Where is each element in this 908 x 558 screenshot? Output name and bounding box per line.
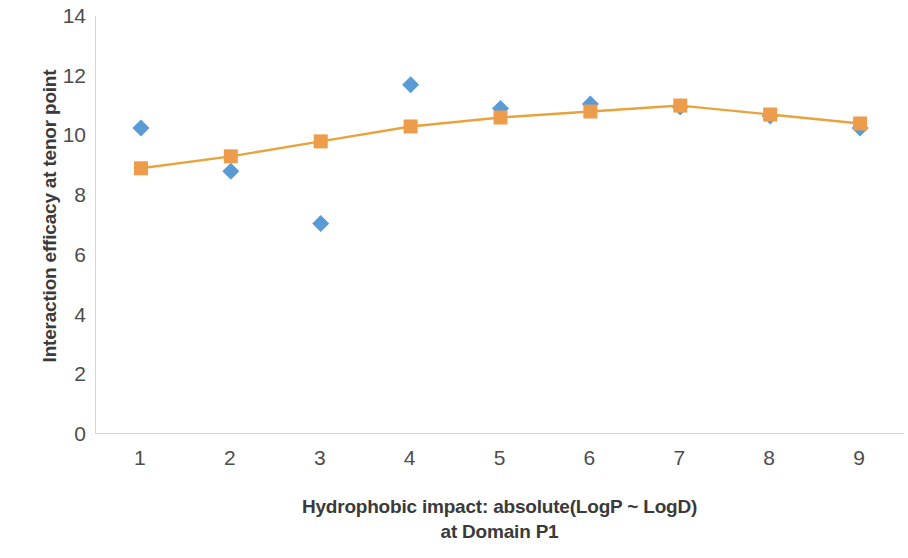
data-point-square xyxy=(134,161,148,175)
x-axis-tick-label: 3 xyxy=(290,447,350,468)
data-point-square xyxy=(673,99,687,113)
y-axis-tick-label: 14 xyxy=(46,5,86,26)
data-point-square xyxy=(583,105,597,119)
y-axis-tick-labels: 02468101214 xyxy=(38,0,86,558)
x-axis-title: Hydrophobic impact: absolute(LogP ~ LogD… xyxy=(95,494,904,544)
data-point-diamond xyxy=(132,119,149,136)
x-axis-tick-label: 5 xyxy=(470,447,530,468)
x-axis-tick-label: 6 xyxy=(559,447,619,468)
data-point-square xyxy=(224,149,238,163)
chart-container: Interaction efficacy at tenor point 0246… xyxy=(0,0,908,558)
data-point-diamond xyxy=(222,163,239,180)
y-axis-tick-label: 2 xyxy=(46,363,86,384)
data-point-square xyxy=(494,111,508,125)
x-axis-tick-label: 1 xyxy=(110,447,170,468)
y-axis-tick-label: 12 xyxy=(46,65,86,86)
y-axis-tick-label: 8 xyxy=(46,184,86,205)
x-axis-tick-labels: 123456789 xyxy=(95,447,904,479)
y-axis-tick-label: 10 xyxy=(46,124,86,145)
x-axis-tick-label: 4 xyxy=(380,447,440,468)
x-axis-tick-label: 9 xyxy=(829,447,889,468)
x-axis-tick-label: 2 xyxy=(200,447,260,468)
data-point-square xyxy=(853,116,867,130)
data-point-square xyxy=(314,134,328,148)
y-axis-tick-label: 0 xyxy=(46,423,86,444)
y-axis-tick-label: 6 xyxy=(46,244,86,265)
x-axis-tick-label: 7 xyxy=(649,447,709,468)
x-axis-tick-label: 8 xyxy=(739,447,799,468)
x-axis-title-line-1: Hydrophobic impact: absolute(LogP ~ LogD… xyxy=(95,494,904,519)
data-point-diamond xyxy=(312,215,329,232)
x-axis-title-line-2: at Domain P1 xyxy=(95,519,904,544)
data-point-square xyxy=(763,108,777,122)
y-axis-tick-label: 4 xyxy=(46,304,86,325)
plot-canvas xyxy=(96,16,905,434)
data-point-square xyxy=(404,119,418,133)
data-point-diamond xyxy=(402,76,419,93)
plot-area xyxy=(95,16,904,434)
